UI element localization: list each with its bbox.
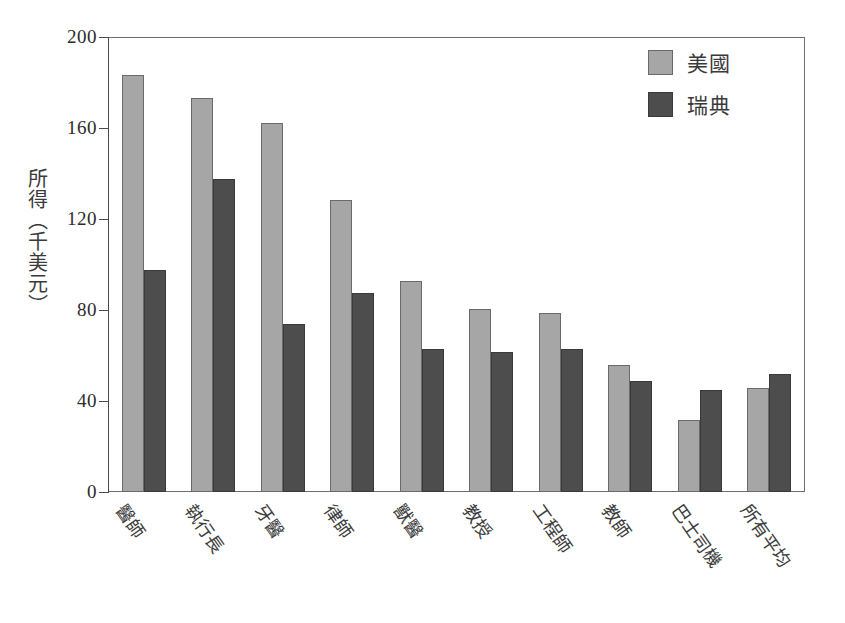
y-axis-tick	[99, 128, 108, 129]
bar-group	[526, 38, 596, 492]
y-axis-tick	[99, 492, 108, 493]
legend-item-us: 美國	[648, 47, 731, 77]
y-axis-tick-label: 40	[5, 390, 97, 412]
x-axis-tick-labels: 醫師執行長牙醫律師獸醫教授工程師教師巴士司機所有平均	[109, 498, 804, 623]
x-axis-tick-label: 醫師	[110, 498, 152, 542]
bar	[747, 388, 769, 492]
y-axis-tick-label: 120	[5, 208, 97, 230]
y-axis-tick	[99, 401, 108, 402]
bar-group	[318, 38, 388, 492]
bar	[491, 352, 513, 492]
bar	[539, 313, 561, 492]
x-axis-tick-label: 執行長	[180, 498, 232, 557]
bar	[400, 281, 422, 492]
x-axis-tick-label: 教師	[597, 498, 639, 542]
legend-label-se: 瑞典	[687, 89, 731, 119]
bar	[261, 123, 283, 492]
bar	[469, 309, 491, 492]
bar	[422, 349, 444, 492]
bar	[330, 200, 352, 492]
bar	[283, 324, 305, 492]
bar	[191, 98, 213, 492]
y-axis-tick-label: 80	[5, 299, 97, 321]
y-axis-tick	[99, 310, 108, 311]
light-gray-swatch-icon	[648, 50, 673, 75]
dark-gray-swatch-icon	[648, 92, 673, 117]
bar	[700, 390, 722, 492]
y-axis-tick-label: 200	[5, 26, 97, 48]
y-axis-tick-label: 0	[5, 481, 97, 503]
y-axis-tick-label: 160	[5, 117, 97, 139]
bar-group	[179, 38, 249, 492]
x-axis-tick-label: 獸醫	[388, 498, 430, 542]
legend-item-se: 瑞典	[648, 89, 731, 119]
bar	[144, 270, 166, 492]
x-axis-tick-label: 教授	[458, 498, 500, 542]
income-comparison-bar-chart: 所得（千美元） 20016012080400 醫師執行長牙醫律師獸醫教授工程師教…	[0, 0, 845, 623]
bar	[769, 374, 791, 492]
y-axis-tick-labels: 20016012080400	[0, 0, 97, 623]
bar	[122, 75, 144, 492]
bar	[352, 293, 374, 492]
bar-group	[248, 38, 318, 492]
bar	[608, 365, 630, 492]
x-axis-tick-label: 牙醫	[249, 498, 291, 542]
y-axis-tick	[99, 219, 108, 220]
y-axis-tick	[99, 37, 108, 38]
x-axis-tick-label: 所有平均	[736, 498, 799, 572]
legend-label-us: 美國	[687, 47, 731, 77]
bar	[561, 349, 583, 492]
bar-group	[735, 38, 805, 492]
x-axis-tick-label: 律師	[319, 498, 361, 542]
bar-group	[457, 38, 527, 492]
x-axis-tick-label: 工程師	[527, 498, 579, 557]
bar	[213, 179, 235, 492]
bar-group	[109, 38, 179, 492]
x-axis-tick-label: 巴士司機	[666, 498, 729, 572]
legend: 美國 瑞典	[648, 47, 731, 119]
bar	[630, 381, 652, 492]
bar-group	[387, 38, 457, 492]
bar	[678, 420, 700, 492]
